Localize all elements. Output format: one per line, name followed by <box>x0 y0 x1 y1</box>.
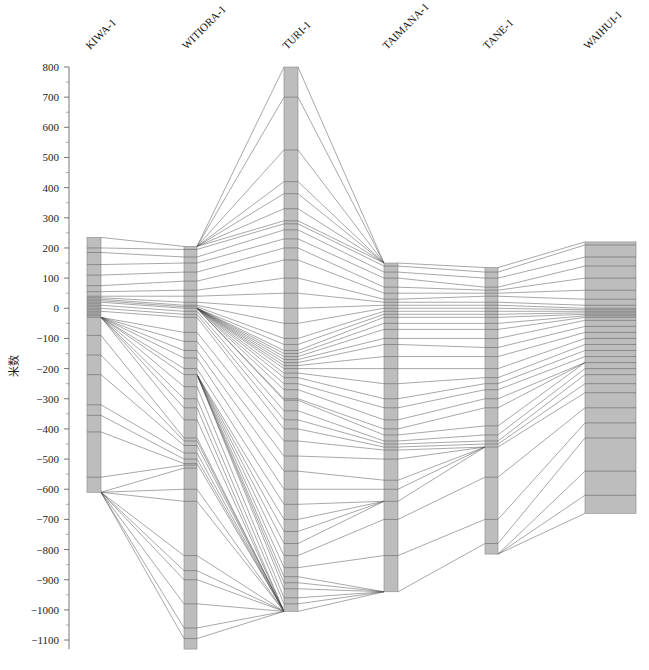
y-tick-label: −400 <box>36 423 59 435</box>
correlation-line <box>101 317 184 374</box>
correlation-line <box>298 471 384 480</box>
correlation-line <box>298 592 384 604</box>
well-bar <box>87 237 101 492</box>
correlation-line <box>101 272 184 275</box>
y-tick-label: −500 <box>36 453 59 465</box>
correlation-line <box>101 317 184 407</box>
correlation-line <box>298 357 384 366</box>
correlation-line <box>101 317 184 350</box>
correlation-line <box>398 390 485 408</box>
correlation-line <box>101 492 184 628</box>
correlation-line <box>101 311 184 317</box>
y-tick-label: 300 <box>43 212 60 224</box>
y-tick-label: −200 <box>36 363 59 375</box>
correlation-line <box>498 257 585 278</box>
correlation-line <box>197 302 284 308</box>
correlation-line <box>197 67 284 246</box>
correlation-line <box>197 260 284 281</box>
correlation-line <box>498 513 585 554</box>
correlation-line <box>101 492 184 604</box>
correlation-line <box>101 468 184 492</box>
correlation-line <box>197 308 284 365</box>
correlation-line <box>197 150 284 247</box>
correlation-line <box>298 317 384 350</box>
correlation-line <box>101 305 184 311</box>
correlation-line <box>298 293 384 302</box>
correlation-line <box>101 355 184 441</box>
well-label: TURI-1 <box>280 18 313 51</box>
correlation-line <box>298 556 384 568</box>
y-tick-label: −1100 <box>31 634 59 646</box>
correlation-line <box>398 272 485 278</box>
correlation-line <box>498 344 585 377</box>
y-axis-label: 米数 <box>8 355 21 377</box>
correlation-line <box>298 221 384 263</box>
correlation-line <box>398 278 485 287</box>
correlation-line <box>498 290 585 293</box>
correlation-line <box>197 453 284 611</box>
correlation-line <box>197 308 284 350</box>
well-label: KIWA-1 <box>83 16 118 51</box>
correlation-line <box>498 245 585 272</box>
correlation-line <box>498 363 585 399</box>
correlation-line <box>498 423 585 520</box>
y-tick-label: 100 <box>43 272 60 284</box>
correlation-line <box>197 375 284 577</box>
correlation-line <box>197 369 284 505</box>
well-bar <box>284 67 298 611</box>
correlation-line <box>398 296 485 299</box>
correlation-line <box>398 384 485 399</box>
correlation-line <box>398 477 485 519</box>
correlation-line <box>101 465 184 477</box>
correlation-line <box>298 456 384 459</box>
well-label: TAIMANA-1 <box>380 0 431 51</box>
correlation-line <box>498 296 585 299</box>
correlation-line <box>197 308 284 383</box>
correlation-line <box>298 501 384 543</box>
correlation-line <box>197 248 284 272</box>
correlation-line <box>398 447 485 501</box>
correlation-line <box>498 471 585 554</box>
correlation-line <box>197 464 284 612</box>
y-tick-label: −900 <box>36 574 59 586</box>
correlation-line <box>498 363 585 426</box>
well-bar <box>585 242 636 513</box>
correlation-line <box>101 281 184 286</box>
correlation-line <box>101 290 184 292</box>
y-tick-label: 700 <box>43 91 60 103</box>
correlation-line <box>101 317 184 420</box>
well-column-waihui-1 <box>585 242 636 513</box>
correlation-line <box>398 447 485 450</box>
correlation-line <box>101 492 184 555</box>
correlation-line <box>398 441 485 444</box>
correlation-line <box>101 248 184 250</box>
correlation-line <box>498 317 585 329</box>
well-label: TANE-1 <box>480 16 515 51</box>
correlation-line <box>197 420 284 612</box>
correlation-line <box>398 447 485 480</box>
correlation-line <box>197 556 284 612</box>
correlation-line <box>298 373 384 384</box>
correlation-line <box>101 237 184 246</box>
correlation-line <box>101 432 184 464</box>
correlation-line <box>101 302 184 308</box>
well-label: WAIHUI-1 <box>581 8 624 51</box>
well-column-kiwa-1 <box>87 237 101 492</box>
correlation-line <box>398 378 485 384</box>
well-bar <box>384 263 398 592</box>
y-tick-label: 500 <box>43 151 60 163</box>
correlation-line <box>398 287 485 290</box>
correlation-line <box>197 399 284 604</box>
correlation-line <box>101 492 184 579</box>
y-axis: 8007006005004003002001000−100−200−300−40… <box>31 61 69 649</box>
correlation-line <box>197 375 284 583</box>
correlation-line <box>398 399 485 420</box>
correlation-line <box>498 495 585 554</box>
y-tick-label: −800 <box>36 544 59 556</box>
y-tick-label: 400 <box>43 182 60 194</box>
correlation-line <box>398 447 485 489</box>
well-bar <box>485 268 498 555</box>
correlation-line <box>101 492 184 501</box>
well-column-witiora-1 <box>184 246 197 649</box>
correlation-line <box>101 375 184 446</box>
